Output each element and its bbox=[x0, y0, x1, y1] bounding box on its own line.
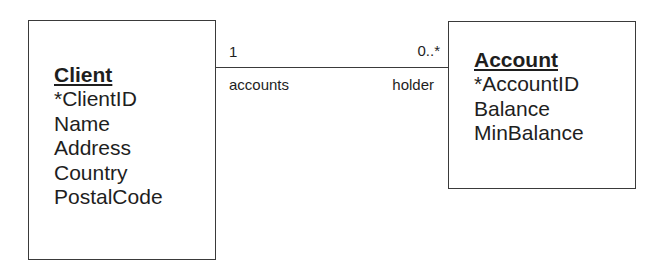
attribute-client-id: *ClientID bbox=[54, 87, 163, 112]
association-line bbox=[215, 67, 449, 68]
role-holder: holder bbox=[392, 76, 434, 93]
attribute-min-balance: MinBalance bbox=[474, 121, 584, 146]
entity-account: Account *AccountID Balance MinBalance bbox=[448, 21, 636, 189]
role-accounts: accounts bbox=[229, 76, 289, 93]
attribute-country: Country bbox=[54, 161, 163, 186]
entity-client-title: Client bbox=[54, 63, 163, 87]
multiplicity-account: 0..* bbox=[417, 42, 440, 59]
attribute-account-id: *AccountID bbox=[474, 72, 584, 97]
attribute-address: Address bbox=[54, 136, 163, 161]
attribute-postal-code: PostalCode bbox=[54, 185, 163, 210]
entity-client: Client *ClientID Name Address Country Po… bbox=[28, 20, 216, 260]
multiplicity-client: 1 bbox=[229, 43, 237, 60]
entity-account-title: Account bbox=[474, 48, 584, 72]
attribute-name: Name bbox=[54, 112, 163, 137]
attribute-balance: Balance bbox=[474, 97, 584, 122]
